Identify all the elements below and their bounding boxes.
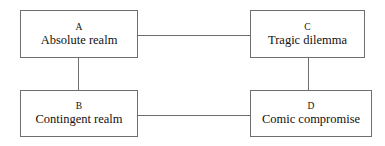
edge-a-to-b bbox=[78, 58, 79, 90]
edge-b-to-d bbox=[138, 115, 250, 116]
node-a-key: A bbox=[75, 21, 82, 33]
node-c-label: Tragic dilemma bbox=[268, 33, 347, 48]
node-b[interactable]: B Contingent realm bbox=[20, 90, 138, 137]
edge-c-to-d bbox=[308, 58, 309, 90]
edge-a-to-c bbox=[138, 35, 250, 36]
node-d-key: D bbox=[307, 100, 314, 112]
node-c-key: C bbox=[304, 21, 311, 33]
node-a[interactable]: A Absolute realm bbox=[20, 10, 138, 58]
node-a-label: Absolute realm bbox=[41, 33, 118, 48]
node-b-label: Contingent realm bbox=[35, 112, 122, 127]
node-b-key: B bbox=[76, 100, 83, 112]
node-c[interactable]: C Tragic dilemma bbox=[250, 10, 365, 58]
diagram-canvas: A Absolute realm C Tragic dilemma B Cont… bbox=[0, 0, 385, 146]
node-d-label: Comic compromise bbox=[262, 112, 360, 127]
node-d[interactable]: D Comic compromise bbox=[250, 90, 372, 137]
